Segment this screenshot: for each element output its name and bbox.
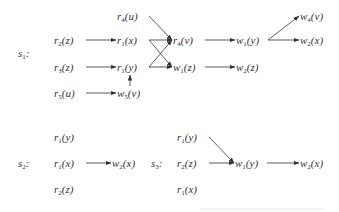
s1-node-w1y: w1(y): [236, 34, 259, 48]
s3-node-r1x: r1(x): [177, 183, 197, 197]
s1-node-w5v: w5(v): [117, 87, 140, 101]
nodes: s1:r4(u)r2(z)r1(x)r4(v)w1(y)w4(v)w2(x)r3…: [18, 10, 323, 197]
s3-node-w2x: w2(x): [300, 157, 323, 171]
s1-node-w4v: w4(v): [300, 10, 323, 24]
s1-node-r3z: r3(z): [54, 61, 74, 75]
s2-label: s2:: [18, 157, 29, 171]
s1-node-w1z: w1(z): [173, 61, 196, 75]
s2-node-r2z: r2(z): [54, 183, 74, 197]
s1-node-r1x: r1(x): [117, 34, 137, 48]
s2-node-w2x: w2(x): [112, 157, 135, 171]
schedule-diagram: s1:r4(u)r2(z)r1(x)r4(v)w1(y)w4(v)w2(x)r3…: [0, 0, 339, 212]
s1-node-w2x: w2(x): [300, 34, 323, 48]
s3-node-r2z: r2(z): [177, 157, 197, 171]
s2-node-r1x: r1(x): [54, 157, 74, 171]
s1-node-r2z: r2(z): [54, 34, 74, 48]
s1-label: s1:: [18, 47, 29, 61]
s3-node-r1y: r1(y): [177, 131, 197, 145]
s2-node-r1y: r1(y): [54, 131, 74, 145]
s1-edge-r4u-to-r4v: [149, 16, 172, 40]
s3-label: s3:: [151, 157, 162, 171]
s1-node-w2z: w2(z): [236, 61, 259, 75]
s1-node-r1y: r1(y): [117, 61, 137, 75]
s3-node-w1y: w1(y): [235, 157, 258, 171]
s1-edge-w1y-to-w4v: [268, 16, 299, 40]
s3-edge-r1y-to-w1y: [209, 137, 234, 163]
s1-node-r5u: r5(u): [54, 87, 75, 101]
s1-node-r4u: r4(u): [117, 10, 138, 24]
s1-node-r4v: r4(v): [173, 34, 193, 48]
